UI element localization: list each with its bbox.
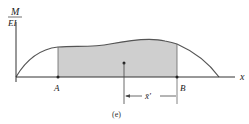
point-b-dot (176, 76, 179, 79)
point-a-label: A (53, 83, 60, 93)
x-axis-label: x (239, 71, 245, 82)
y-axis-label-m: M (10, 6, 20, 17)
y-axis-label-ei: EI (7, 18, 17, 28)
shaded-area-a-to-b (58, 39, 177, 77)
moment-area-diagram: M EI x A B x̄′ (e) (0, 0, 249, 124)
figure-caption: (e) (112, 110, 121, 119)
point-b-label: B (180, 83, 186, 93)
centroid-distance-label: x̄′ (144, 91, 152, 101)
arrowhead-left-icon (125, 94, 130, 97)
point-a-dot (57, 76, 60, 79)
